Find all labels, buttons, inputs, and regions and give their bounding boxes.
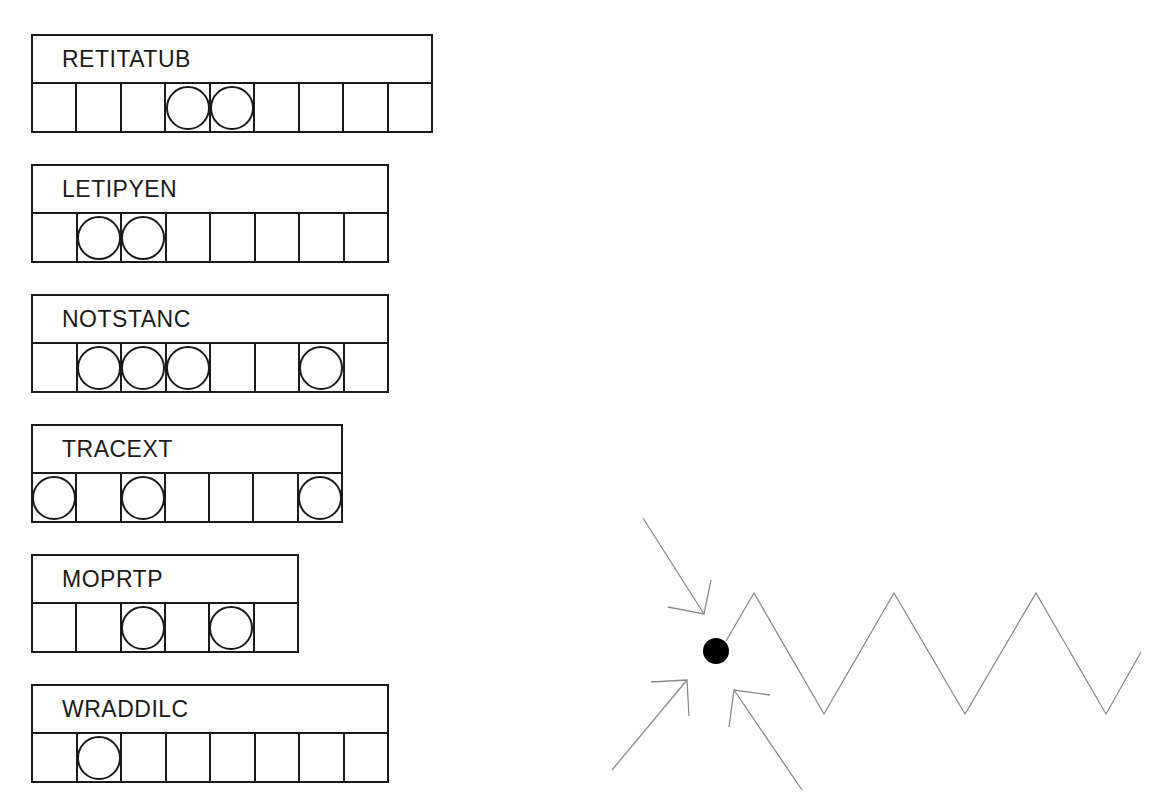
- letter-input[interactable]: [122, 84, 164, 131]
- letter-input[interactable]: [256, 214, 299, 261]
- circled-answer-cell[interactable]: [122, 214, 167, 261]
- answer-cell[interactable]: [211, 734, 256, 781]
- circled-answer-cell[interactable]: [300, 344, 345, 391]
- jumble-box-2: LETIPYEN: [31, 164, 389, 263]
- letter-input[interactable]: [345, 344, 388, 391]
- letter-input[interactable]: [78, 734, 121, 781]
- letter-input[interactable]: [300, 344, 343, 391]
- letter-input[interactable]: [300, 734, 343, 781]
- letter-input[interactable]: [77, 84, 119, 131]
- letter-input[interactable]: [33, 344, 76, 391]
- answer-cell[interactable]: [256, 214, 301, 261]
- answer-cell[interactable]: [254, 474, 298, 521]
- circled-answer-cell[interactable]: [33, 474, 77, 521]
- circled-answer-cell[interactable]: [299, 474, 341, 521]
- letter-input[interactable]: [78, 214, 121, 261]
- letter-input[interactable]: [255, 604, 297, 651]
- letter-input[interactable]: [77, 604, 119, 651]
- answer-cell[interactable]: [256, 734, 301, 781]
- letter-input[interactable]: [167, 734, 210, 781]
- answer-cell[interactable]: [256, 344, 301, 391]
- letter-input[interactable]: [122, 344, 165, 391]
- letter-input[interactable]: [344, 84, 386, 131]
- answer-cell[interactable]: [77, 604, 121, 651]
- circled-answer-cell[interactable]: [78, 344, 123, 391]
- letter-input[interactable]: [122, 214, 165, 261]
- letter-input[interactable]: [211, 344, 254, 391]
- answer-cell[interactable]: [167, 734, 212, 781]
- circled-answer-cell[interactable]: [122, 344, 167, 391]
- letter-input[interactable]: [166, 84, 208, 131]
- letter-input[interactable]: [167, 344, 210, 391]
- scrambled-word: NOTSTANC: [62, 306, 191, 333]
- letter-input[interactable]: [210, 474, 252, 521]
- jumble-box-3: NOTSTANC: [31, 294, 389, 393]
- letter-input[interactable]: [345, 734, 388, 781]
- circled-answer-cell[interactable]: [166, 84, 210, 131]
- letter-input[interactable]: [211, 734, 254, 781]
- answer-cell[interactable]: [344, 84, 388, 131]
- answer-cell[interactable]: [166, 474, 210, 521]
- letter-input[interactable]: [33, 84, 75, 131]
- circled-answer-cell[interactable]: [167, 344, 212, 391]
- letter-input[interactable]: [33, 474, 75, 521]
- answer-cell[interactable]: [345, 734, 388, 781]
- answer-cell[interactable]: [300, 214, 345, 261]
- letter-input[interactable]: [256, 734, 299, 781]
- answer-cell[interactable]: [211, 344, 256, 391]
- answer-cells: [33, 214, 387, 261]
- answer-cell[interactable]: [345, 344, 388, 391]
- letter-input[interactable]: [122, 474, 164, 521]
- circled-answer-cell[interactable]: [210, 604, 254, 651]
- letter-input[interactable]: [256, 344, 299, 391]
- letter-input[interactable]: [33, 734, 76, 781]
- letter-input[interactable]: [211, 84, 253, 131]
- letter-input[interactable]: [210, 604, 252, 651]
- circled-answer-cell[interactable]: [78, 214, 123, 261]
- circled-answer-cell[interactable]: [122, 474, 166, 521]
- letter-input[interactable]: [77, 474, 119, 521]
- answer-cell[interactable]: [33, 214, 78, 261]
- answer-cell[interactable]: [33, 734, 78, 781]
- letter-input[interactable]: [167, 214, 210, 261]
- answer-cell[interactable]: [255, 604, 297, 651]
- letter-input[interactable]: [33, 214, 76, 261]
- letter-input[interactable]: [78, 344, 121, 391]
- answer-cell[interactable]: [345, 214, 388, 261]
- answer-cell[interactable]: [33, 604, 77, 651]
- answer-cell[interactable]: [166, 604, 210, 651]
- answer-cell[interactable]: [77, 84, 121, 131]
- circled-answer-cell[interactable]: [122, 604, 166, 651]
- answer-cell[interactable]: [300, 734, 345, 781]
- letter-input[interactable]: [300, 84, 342, 131]
- letter-input[interactable]: [122, 604, 164, 651]
- jumble-box-5: MOPRTP: [31, 554, 299, 653]
- answer-cell[interactable]: [122, 84, 166, 131]
- letter-input[interactable]: [122, 734, 165, 781]
- circled-answer-cell[interactable]: [211, 84, 255, 131]
- circled-answer-cell[interactable]: [78, 734, 123, 781]
- answer-cell[interactable]: [167, 214, 212, 261]
- answer-cell[interactable]: [210, 474, 254, 521]
- answer-cell[interactable]: [122, 734, 167, 781]
- letter-input[interactable]: [33, 604, 75, 651]
- letter-input[interactable]: [211, 214, 254, 261]
- answer-cell[interactable]: [300, 84, 344, 131]
- jumble-header: LETIPYEN: [33, 166, 387, 214]
- jumble-box-1: RETITATUB: [31, 34, 433, 133]
- letter-input[interactable]: [255, 84, 297, 131]
- letter-input[interactable]: [345, 214, 388, 261]
- answer-cell[interactable]: [255, 84, 299, 131]
- letter-input[interactable]: [389, 84, 431, 131]
- letter-input[interactable]: [166, 474, 208, 521]
- letter-input[interactable]: [254, 474, 296, 521]
- answer-cell[interactable]: [33, 84, 77, 131]
- letter-input[interactable]: [299, 474, 341, 521]
- letter-input[interactable]: [166, 604, 208, 651]
- answer-cell[interactable]: [389, 84, 431, 131]
- letter-input[interactable]: [300, 214, 343, 261]
- answer-cell[interactable]: [33, 344, 78, 391]
- answer-cell[interactable]: [211, 214, 256, 261]
- answer-cell[interactable]: [77, 474, 121, 521]
- jumble-header: WRADDILC: [33, 686, 387, 734]
